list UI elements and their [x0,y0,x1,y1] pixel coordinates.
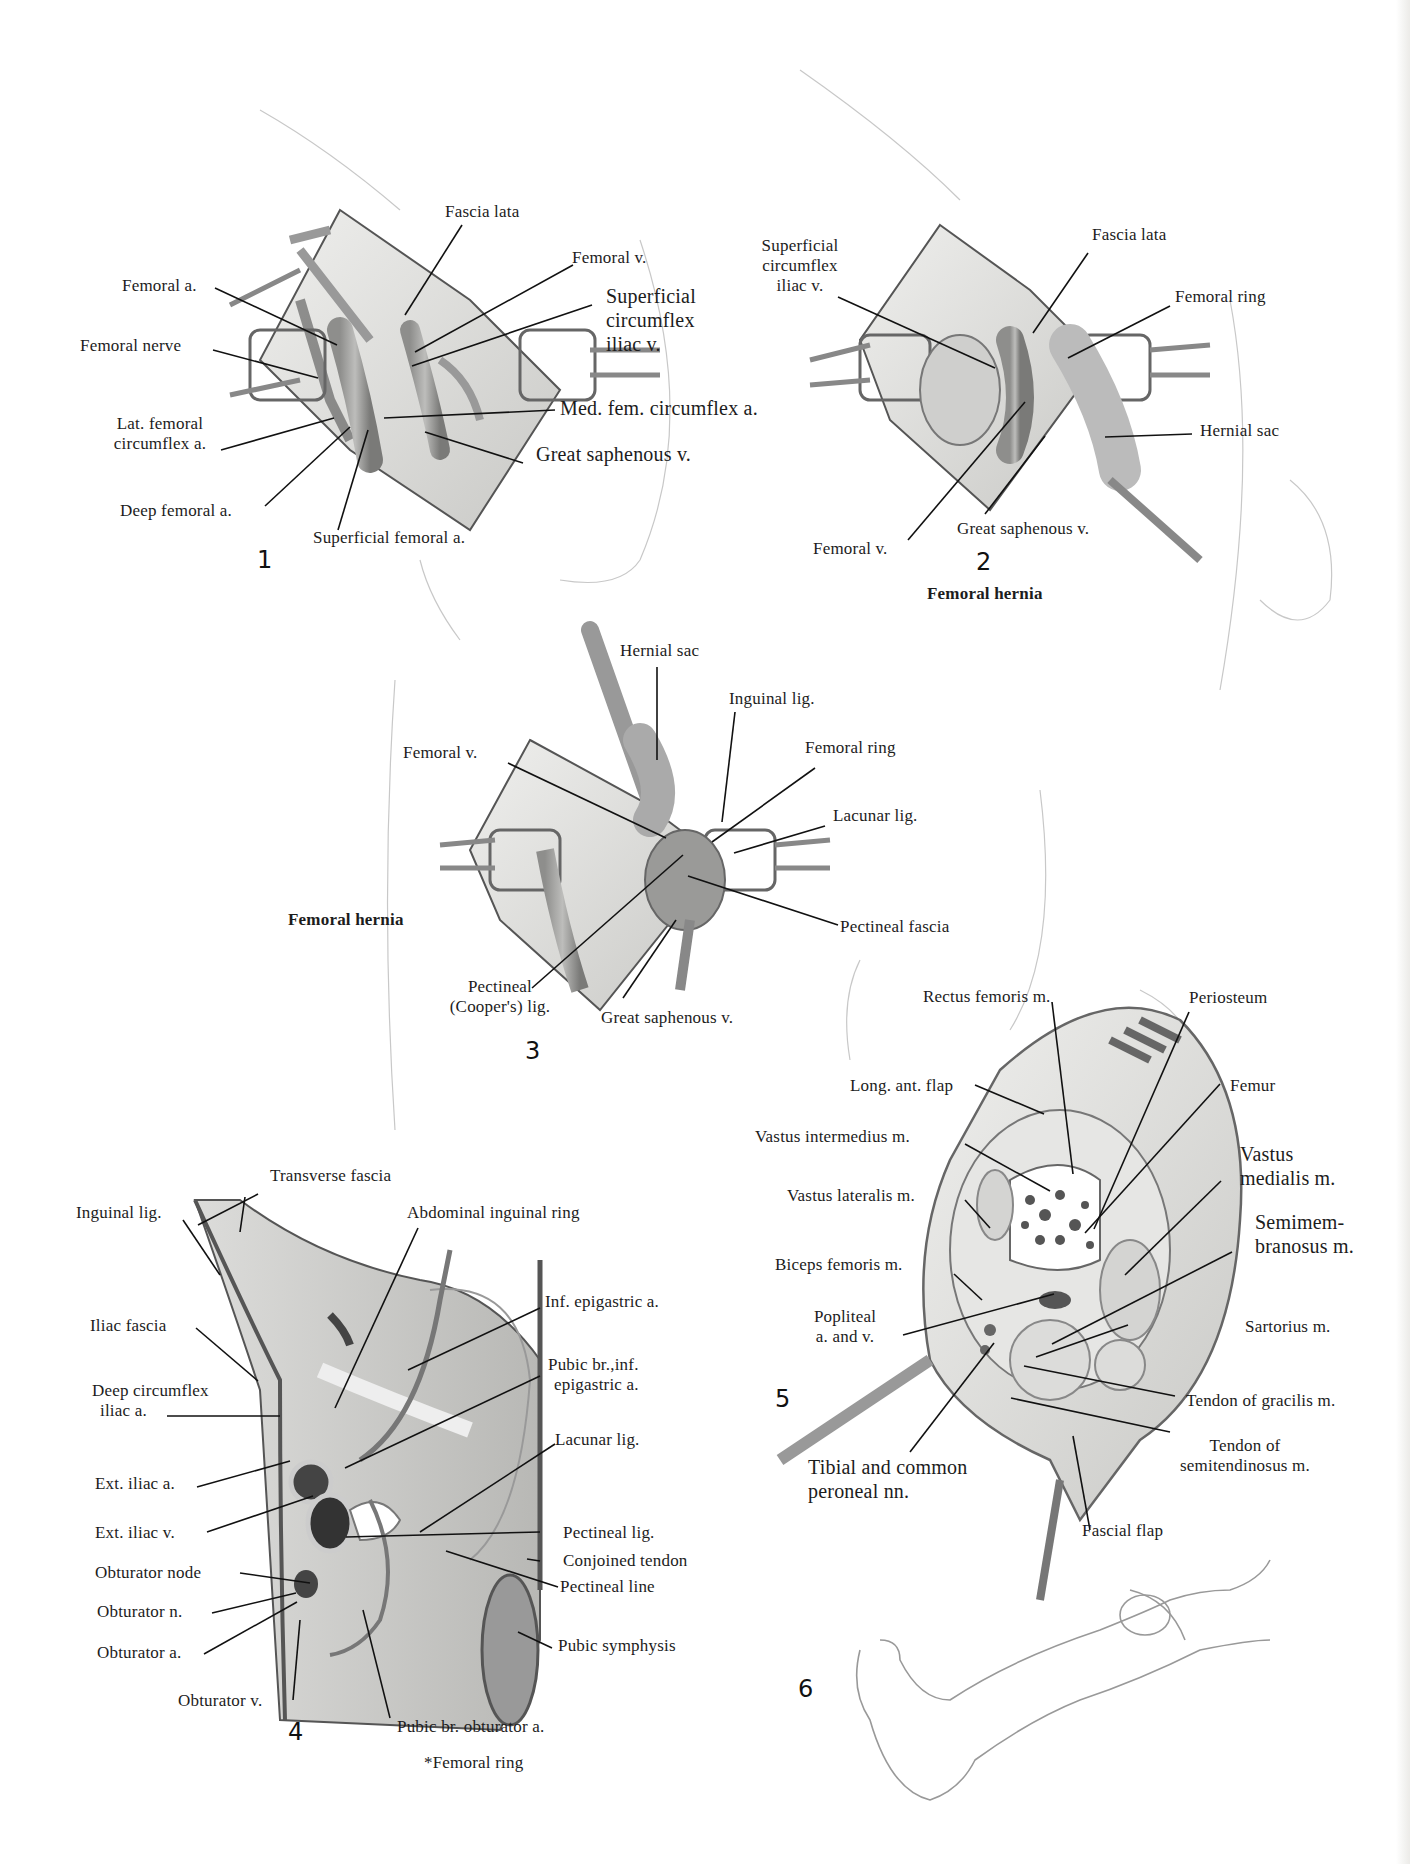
label-femur: Femur [1230,1076,1275,1096]
label-pectineal-fascia: Pectineal fascia [840,917,949,937]
label-ext-iliac-artery: Ext. iliac a. [95,1474,175,1494]
label-lacunar-ligament: Lacunar lig. [555,1430,640,1450]
label-pectineal-line: Pectineal line [560,1577,655,1597]
label-biceps-femoris: Biceps femoris m. [775,1255,903,1275]
label-deep-femoral-artery: Deep femoral a. [120,501,232,521]
label-popliteal-artery-and-vein: Popliteal a. and v. [790,1307,900,1347]
figure-3-caption: Femoral hernia [288,910,404,930]
label-femoral-vein: Femoral v. [403,743,478,763]
label-inguinal-ligament: Inguinal lig. [76,1203,162,1223]
label-vastus-lateralis: Vastus lateralis m. [787,1186,915,1206]
figure-number-6: 6 [798,1675,813,1703]
label-iliac-fascia: Iliac fascia [90,1316,167,1336]
label-pubic-symphysis: Pubic symphysis [558,1636,676,1656]
panel-5-illustration [780,1008,1241,1600]
label-fascia-lata: Fascia lata [445,202,519,222]
label-femoral-artery: Femoral a. [122,276,197,296]
label-great-saphenous-vein: Great saphenous v. [601,1008,733,1028]
label-great-saphenous-vein: Great saphenous v. [957,519,1089,539]
label-pectineal-ligament: Pectineal lig. [563,1523,655,1543]
label-femoral-ring: Femoral ring [1175,287,1266,307]
figure-number-1: 1 [257,546,272,574]
label-hernial-sac: Hernial sac [1200,421,1279,441]
panel-6-leg-illustration [857,1560,1270,1800]
label-obturator-vein: Obturator v. [178,1691,262,1711]
figure-number-3: 3 [525,1037,540,1065]
figure-2-caption: Femoral hernia [927,584,1043,604]
label-semimembranosus: Semimem- branosus m. [1255,1210,1354,1258]
scanned-page-edge [1396,0,1410,1864]
label-deep-circumflex-iliac-artery: Deep circumflex iliac a. [92,1381,209,1421]
label-lat-femoral-circumflex: Lat. femoral circumflex a. [100,414,220,454]
label-rectus-femoris: Rectus femoris m. [923,987,1051,1007]
label-inguinal-ligament: Inguinal lig. [729,689,815,709]
label-med-fem-circumflex-artery: Med. fem. circumflex a. [560,396,758,420]
panel-3-illustration [440,630,830,1010]
label-obturator-nerve: Obturator n. [97,1602,183,1622]
label-vastus-medialis: Vastus medialis m. [1240,1142,1336,1190]
label-conjoined-tendon: Conjoined tendon [563,1551,688,1571]
label-femoral-nerve: Femoral nerve [80,336,181,356]
figure-number-2: 2 [976,548,991,576]
panel-2-illustration [810,225,1210,560]
figure-number-5: 5 [775,1385,790,1413]
label-tendon-of-gracilis: Tendon of gracilis m. [1186,1391,1335,1411]
label-tibial-and-common-peroneal-nerves: Tibial and common peroneal nn. [808,1455,967,1503]
label-lacunar-ligament: Lacunar lig. [833,806,918,826]
anatomical-illustration [0,0,1410,1864]
label-femoral-vein: Femoral v. [572,248,647,268]
label-great-saphenous-vein: Great saphenous v. [536,442,691,466]
label-sartorius: Sartorius m. [1245,1317,1331,1337]
label-pectineal-coopers-ligament: Pectineal (Cooper's) lig. [440,977,560,1017]
label-pubic-br-inf-epigastric: Pubic br.,inf. epigastric a. [548,1355,639,1395]
label-obturator-node: Obturator node [95,1563,201,1583]
figure-number-4: 4 [288,1718,303,1746]
label-superficial-circumflex-iliac-vein: Superficial circumflex iliac v. [606,284,696,356]
label-transverse-fascia: Transverse fascia [270,1166,391,1186]
label-vastus-intermedius: Vastus intermedius m. [755,1127,910,1147]
label-pubic-br-obturator-artery: Pubic br. obturator a. [397,1717,544,1737]
label-femoral-vein: Femoral v. [813,539,888,559]
label-ext-iliac-vein: Ext. iliac v. [95,1523,175,1543]
panel-4-illustration [195,1200,540,1730]
label-superficial-femoral-artery-text: Superficial femoral a. [313,528,465,548]
label-hernial-sac: Hernial sac [620,641,699,661]
label-fascial-flap: Fascial flap [1082,1521,1163,1541]
label-femoral-ring: Femoral ring [805,738,896,758]
label-long-ant-flap: Long. ant. flap [850,1076,953,1096]
label-obturator-artery: Obturator a. [97,1643,182,1663]
label-tendon-of-semitendinosus: Tendon of semitendinosus m. [1145,1436,1345,1476]
footnote-femoral-ring: *Femoral ring [424,1753,523,1773]
label-fascia-lata: Fascia lata [1092,225,1166,245]
label-periosteum: Periosteum [1189,988,1268,1008]
skin-contours [260,70,1332,1130]
label-abdominal-inguinal-ring: Abdominal inguinal ring [407,1203,580,1223]
label-inf-epigastric-artery: Inf. epigastric a. [545,1292,659,1312]
label-superficial-circumflex-iliac-vein: Superficial circumflex iliac v. [745,236,855,296]
